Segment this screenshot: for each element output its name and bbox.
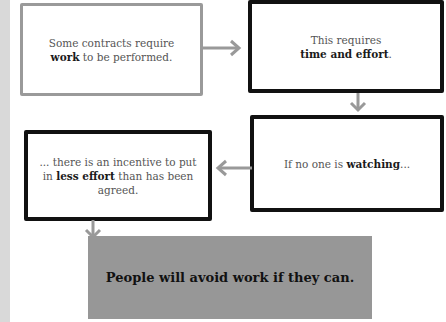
node-contracts-require-work: Some contracts require work to be perfor… [20,3,203,96]
node-text: This requires time and effort. [290,33,402,61]
node-bold-text: watching [346,158,400,170]
node-no-one-watching: If no one is watching... [250,115,444,212]
conclusion-text: People will avoid work if they can. [106,270,354,285]
node-text: If no one is watching... [274,157,420,171]
node-time-and-effort: This requires time and effort. [248,0,444,93]
node-text: Some contracts require work to be perfor… [39,36,185,64]
left-margin-strip [0,0,10,322]
conclusion-box: People will avoid work if they can. [88,236,372,319]
node-bold-text: less effort [56,170,115,182]
node-text: ... there is an incentive to put in less… [28,155,208,197]
node-bold-text: time and effort [300,48,388,60]
arrow-right-icon [203,38,243,58]
node-less-effort: ... there is an incentive to put in less… [24,130,212,221]
arrow-left-icon [214,158,252,178]
arrow-down-icon [348,93,368,113]
node-bold-text: work [51,51,80,63]
